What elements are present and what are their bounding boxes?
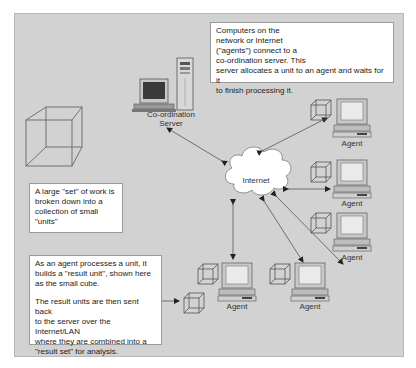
result-unit-cube-icon xyxy=(184,293,204,313)
agent-1-icon xyxy=(311,99,371,137)
server-label-line2: Server xyxy=(141,119,201,128)
note-left-text: A large "set" of work is broken down int… xyxy=(35,187,117,227)
agent-5-label: Agent xyxy=(290,302,330,311)
internet-cloud-icon xyxy=(225,147,291,195)
note-agents-connect: Computers on the network or Internet ("a… xyxy=(210,22,394,83)
agent-2-icon xyxy=(311,160,371,198)
note-top-text: Computers on the network or Internet ("a… xyxy=(216,26,388,96)
large-work-set-cube-icon xyxy=(26,107,82,166)
server-label: Co-ordination Server xyxy=(141,110,201,128)
agent-4-icon xyxy=(198,263,256,301)
note-bottom-para1: As an agent processes a unit, it builds … xyxy=(35,259,156,289)
note-work-set: A large "set" of work is broken down int… xyxy=(29,183,123,233)
agent-4-label: Agent xyxy=(217,302,257,311)
note-result-units: As an agent processes a unit, it builds … xyxy=(29,255,162,345)
agent-3-icon xyxy=(311,213,371,251)
internet-label: Internet xyxy=(236,176,276,185)
agent-1-label: Agent xyxy=(332,139,372,148)
agent-3-label: Agent xyxy=(332,253,372,262)
coordination-server-icon xyxy=(132,58,193,112)
note-bottom-para2: The result units are then sent back to t… xyxy=(35,297,156,357)
server-label-line1: Co-ordination xyxy=(141,110,201,119)
agent-5-icon xyxy=(270,263,329,301)
agent-2-label: Agent xyxy=(332,199,372,208)
